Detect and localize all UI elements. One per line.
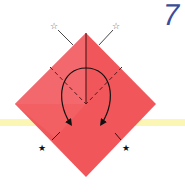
leader-left bbox=[58, 30, 73, 45]
star-filled-icon-bottom-left: ★ bbox=[38, 143, 46, 153]
leader-right bbox=[99, 30, 113, 45]
star-filled-icon-bottom-right: ★ bbox=[122, 143, 130, 153]
origami-diagram bbox=[0, 0, 185, 194]
star-outline-icon-top-left: ☆ bbox=[50, 21, 58, 31]
star-outline-icon-top-right: ☆ bbox=[112, 21, 120, 31]
